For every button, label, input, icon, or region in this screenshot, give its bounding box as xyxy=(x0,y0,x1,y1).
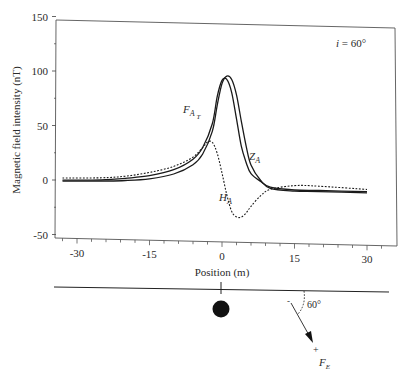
curve-f-at xyxy=(63,78,368,192)
curve-z-a xyxy=(63,76,368,193)
magnetic-anomaly-figure: -50050100150 -30-1501530 FA TZAHA Magnet… xyxy=(0,0,406,379)
label-h-a: HA xyxy=(218,191,232,206)
field-vector-label: FE xyxy=(318,356,331,371)
x-tick-label: -15 xyxy=(142,248,157,260)
plot-frame xyxy=(55,20,397,246)
minus-sign: - xyxy=(287,296,290,306)
y-tick-label: 150 xyxy=(32,11,49,23)
angle-label: 60° xyxy=(307,299,321,310)
field-vector-arrowhead-icon xyxy=(305,331,313,343)
source-body-icon xyxy=(213,301,230,318)
y-tick-label: 100 xyxy=(32,65,49,77)
schematic: 60° - + FE xyxy=(54,282,389,371)
curves xyxy=(63,76,368,218)
curve-labels: FA TZAHA xyxy=(182,103,260,206)
x-tick-label: 15 xyxy=(289,252,301,264)
x-axis-label: Position (m) xyxy=(195,266,250,279)
y-tick-label: -50 xyxy=(33,229,48,241)
x-tick-label: -30 xyxy=(70,247,85,259)
y-tick-label: 50 xyxy=(37,120,49,132)
x-tick-label: 30 xyxy=(362,253,374,265)
angle-arc xyxy=(298,291,304,314)
y-axis-ticks: -50050100150 xyxy=(32,11,57,241)
x-axis-ticks: -30-1501530 xyxy=(63,238,382,265)
x-tick-label: 0 xyxy=(219,250,225,262)
label-f-at: FA T xyxy=(182,103,201,121)
inclination-annotation: i = 60° xyxy=(336,37,366,49)
y-axis-label: Magnetic field intensity (nT) xyxy=(10,66,23,194)
plus-sign: + xyxy=(313,344,319,355)
y-tick-label: 0 xyxy=(43,174,49,186)
